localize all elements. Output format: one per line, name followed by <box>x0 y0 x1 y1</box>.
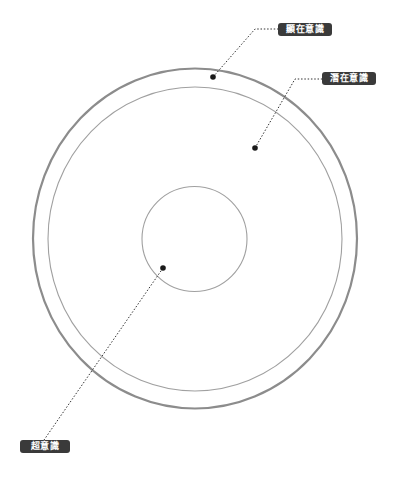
subconscious-dot <box>252 145 258 151</box>
subconscious-label: 潛在意識 <box>322 72 376 85</box>
superconscious-dot <box>160 265 166 271</box>
conscious-label: 顯在意識 <box>278 23 332 36</box>
conscious-leader-line <box>213 29 278 77</box>
superconscious-label: 超意識 <box>20 440 70 453</box>
superconscious-leader-line <box>44 268 163 440</box>
conscious-outer-ring <box>33 69 357 409</box>
subconscious-leader-line <box>255 79 322 148</box>
superconscious-core-circle <box>142 187 247 292</box>
subconscious-circle <box>48 87 342 391</box>
conscious-dot <box>210 74 216 80</box>
